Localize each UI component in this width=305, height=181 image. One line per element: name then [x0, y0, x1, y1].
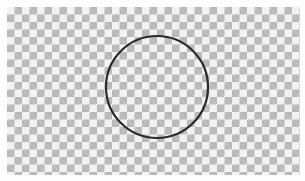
- circle-outline: [106, 36, 208, 138]
- image-preview-frame: [0, 0, 305, 181]
- circle-drawing: [0, 0, 305, 181]
